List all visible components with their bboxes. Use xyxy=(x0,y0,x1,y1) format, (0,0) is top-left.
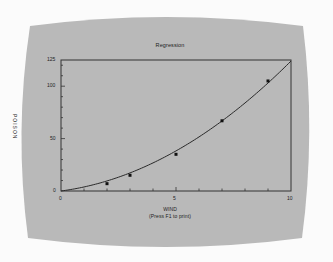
y-tick-label: 125 xyxy=(47,56,55,62)
data-point xyxy=(267,79,270,82)
crt-screen xyxy=(0,0,333,262)
y-axis-label: POISON xyxy=(12,114,18,139)
x-axis-label: WIND xyxy=(150,206,190,212)
data-point xyxy=(106,182,109,185)
chart-title: Regression xyxy=(150,42,190,48)
y-tick-label: 0 xyxy=(53,187,56,193)
data-point xyxy=(175,153,178,156)
x-tick-label: 0 xyxy=(59,195,62,201)
y-tick-label: 50 xyxy=(50,135,56,141)
print-hint: (Press F1 to print) xyxy=(140,213,200,219)
data-point xyxy=(221,119,224,122)
data-point xyxy=(129,174,132,177)
y-tick-label: 100 xyxy=(47,82,55,88)
x-tick-label: 5 xyxy=(173,195,176,201)
x-tick-label: 10 xyxy=(287,195,293,201)
